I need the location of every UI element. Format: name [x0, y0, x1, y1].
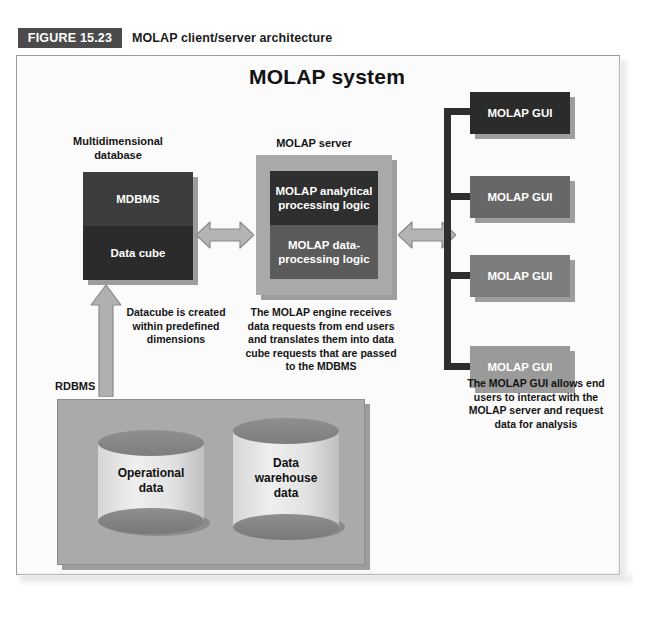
- gui-bracket-arm-1: [444, 108, 472, 115]
- molap-gui-label-2: MOLAP GUI: [488, 190, 553, 204]
- molap-gui-label-4: MOLAP GUI: [488, 360, 553, 374]
- operational-label-line1: Operational: [98, 466, 204, 481]
- db-server-double-arrow: [196, 218, 254, 252]
- molap-gui-box-3: MOLAP GUI: [470, 255, 570, 297]
- engine-caption-line3: and translates them into data: [222, 333, 420, 347]
- analytical-logic-line1: MOLAP analytical: [276, 184, 373, 198]
- molap-server-label: MOLAP server: [247, 137, 381, 151]
- rdbms-label-text: RDBMS: [55, 380, 95, 392]
- md-db-label-line1: Multidimensional: [58, 135, 178, 149]
- engine-caption-line2: data requests from end users: [222, 320, 420, 334]
- warehouse-cylinder-top: [233, 418, 339, 444]
- molap-server-face: MOLAP analytical processing logic MOLAP …: [256, 155, 392, 295]
- molap-gui-label-1: MOLAP GUI: [488, 106, 553, 120]
- diagram-title: MOLAP system: [0, 65, 654, 89]
- md-db-label-line2: database: [58, 149, 178, 163]
- figure-number-badge: FIGURE 15.23: [18, 28, 122, 48]
- warehouse-label-line2: warehouse: [233, 471, 339, 486]
- frame-drop-shadow: [20, 575, 632, 585]
- operational-cylinder-bottom: [98, 508, 204, 534]
- gui-caption: The MOLAP GUI allows end users to intera…: [441, 377, 631, 431]
- operational-cylinder-label: Operational data: [98, 466, 204, 496]
- mdbms-cell: MDBMS: [83, 172, 193, 227]
- gui-bracket-arm-2: [444, 193, 472, 200]
- warehouse-label-line3: data: [233, 486, 339, 501]
- data-logic-line2: processing logic: [278, 252, 369, 266]
- mdbms-label: MDBMS: [116, 192, 159, 206]
- molap-server-block: MOLAP analytical processing logic MOLAP …: [256, 155, 392, 295]
- operational-label-line2: data: [98, 481, 204, 496]
- warehouse-cylinder-label: Data warehouse data: [233, 456, 339, 501]
- molap-gui-box-2: MOLAP GUI: [470, 176, 570, 218]
- engine-caption-line1: The MOLAP engine receives: [222, 306, 420, 320]
- datacube-caption-line2: within predefined: [116, 320, 236, 334]
- multidimensional-database-label: Multidimensional database: [58, 135, 178, 162]
- data-logic-line1: MOLAP data-: [288, 238, 360, 252]
- molap-analytical-logic-cell: MOLAP analytical processing logic: [270, 171, 378, 225]
- gui-caption-line2: users to interact with the: [441, 391, 631, 405]
- engine-caption: The MOLAP engine receives data requests …: [222, 306, 420, 374]
- multidimensional-database-block: MDBMS Data cube: [83, 172, 193, 280]
- molap-gui-face-1: MOLAP GUI: [470, 92, 570, 134]
- md-db-face: MDBMS Data cube: [83, 172, 193, 280]
- operational-data-cylinder: Operational data: [98, 430, 204, 534]
- engine-caption-line4: cube requests that are passed: [222, 347, 420, 361]
- molap-gui-label-3: MOLAP GUI: [488, 269, 553, 283]
- molap-gui-face-2: MOLAP GUI: [470, 176, 570, 218]
- molap-server-label-text: MOLAP server: [276, 137, 352, 149]
- data-cube-cell: Data cube: [83, 226, 193, 280]
- data-warehouse-cylinder: Data warehouse data: [233, 418, 339, 540]
- warehouse-cylinder-bottom: [233, 514, 339, 540]
- figure-page: FIGURE 15.23 MOLAP client/server archite…: [0, 0, 654, 619]
- gui-caption-line1: The MOLAP GUI allows end: [441, 377, 631, 391]
- frame-drop-shadow-right: [620, 60, 629, 578]
- molap-gui-face-3: MOLAP GUI: [470, 255, 570, 297]
- figure-caption: MOLAP client/server architecture: [132, 28, 332, 48]
- gui-caption-line3: MOLAP server and request: [441, 404, 631, 418]
- gui-bracket-arm-4: [444, 363, 472, 370]
- engine-caption-line5: to the MDBMS: [222, 360, 420, 374]
- gui-bracket-spine: [444, 108, 451, 370]
- datacube-caption: Datacube is created within predefined di…: [116, 306, 236, 347]
- datacube-caption-line1: Datacube is created: [116, 306, 236, 320]
- warehouse-label-line1: Data: [233, 456, 339, 471]
- datacube-caption-line3: dimensions: [116, 333, 236, 347]
- molap-gui-box-1: MOLAP GUI: [470, 92, 570, 134]
- molap-data-processing-logic-cell: MOLAP data- processing logic: [270, 225, 378, 279]
- data-cube-label: Data cube: [111, 246, 166, 260]
- analytical-logic-line2: processing logic: [278, 198, 369, 212]
- operational-cylinder-top: [98, 430, 204, 456]
- rdbms-label: RDBMS: [55, 380, 115, 394]
- gui-caption-line4: data for analysis: [441, 418, 631, 432]
- gui-bracket-arm-3: [444, 272, 472, 279]
